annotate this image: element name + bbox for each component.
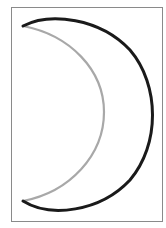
crescent-moon-icon	[0, 0, 166, 228]
figure-border	[12, 8, 163, 222]
crescent-outer-arc	[23, 19, 153, 210]
crescent-figure	[0, 0, 166, 228]
crescent-inner-arc	[23, 26, 104, 201]
